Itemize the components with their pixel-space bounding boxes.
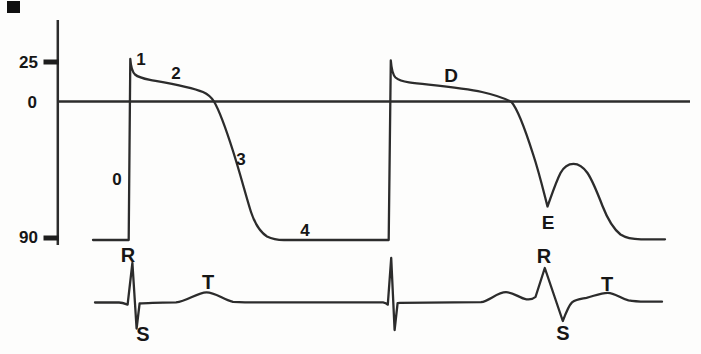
axis-label-0: 0 xyxy=(28,93,37,112)
ecg-t-wave-label-2: T xyxy=(601,273,613,295)
action-potential-trace xyxy=(93,59,665,240)
phase-1-label: 1 xyxy=(136,50,145,69)
ecg-t-wave-label-1: T xyxy=(202,271,214,293)
cardiac-action-potential-ecg-figure: 25 0 90 0 1 2 3 4 D E R S T R S T xyxy=(0,0,701,354)
ecg-r-wave-label-2: R xyxy=(537,245,552,267)
phase-labels: 0 1 2 3 4 D E xyxy=(112,50,554,240)
axis-label-90: 90 xyxy=(19,228,38,247)
ecg-s-wave-label-1: S xyxy=(136,323,149,345)
diagram-canvas: 25 0 90 0 1 2 3 4 D E R S T R S T xyxy=(0,0,701,354)
ecg-s-wave-label-2: S xyxy=(556,322,569,344)
phase-4-label: 4 xyxy=(300,221,310,240)
afterdepolarization-e-label: E xyxy=(542,212,555,233)
ecg-trace xyxy=(95,258,662,330)
phase-2-label: 2 xyxy=(171,64,180,83)
traces xyxy=(93,59,665,330)
plateau-d-label: D xyxy=(444,65,458,86)
phase-0-label: 0 xyxy=(112,170,121,189)
ecg-labels: R S T R S T xyxy=(121,244,613,345)
phase-3-label: 3 xyxy=(236,150,245,169)
axis-label-25: 25 xyxy=(19,53,38,72)
axis-labels: 25 0 90 xyxy=(19,53,38,247)
ecg-r-wave-label-1: R xyxy=(121,244,136,266)
